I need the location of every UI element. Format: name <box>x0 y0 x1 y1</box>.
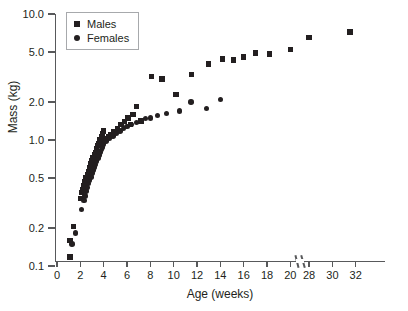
x-tick-label: 10 <box>168 269 180 281</box>
y-tick-label: 2.0 <box>29 96 44 108</box>
x-tick-16: 16 <box>243 261 244 267</box>
x-tick-label: 28 <box>303 269 315 281</box>
data-point-females <box>94 158 100 164</box>
data-point-females <box>218 97 224 103</box>
x-tick-label: 2 <box>77 269 83 281</box>
data-point-females <box>95 155 101 161</box>
data-point-males <box>122 119 127 124</box>
data-point-males <box>128 122 133 127</box>
data-point-females <box>100 144 106 150</box>
y-tick-0.1: 0.1 <box>48 265 55 266</box>
y-tick-0.5: 0.5 <box>48 177 55 178</box>
data-point-females <box>81 198 87 204</box>
x-tick-label: 20 <box>284 269 296 281</box>
data-point-females <box>85 185 91 191</box>
data-point-males <box>111 129 116 134</box>
data-point-females <box>97 149 103 155</box>
x-tick-30: 30 <box>332 261 333 267</box>
data-point-females <box>110 133 116 139</box>
data-point-males <box>86 169 91 174</box>
data-point-males <box>220 56 225 61</box>
x-tick-0: 0 <box>56 261 57 267</box>
y-tick-5.0: 5.0 <box>48 51 55 52</box>
data-point-females <box>82 193 88 199</box>
data-point-females <box>188 99 194 105</box>
data-point-males <box>67 254 72 259</box>
data-point-females <box>204 106 210 112</box>
y-tick-label: 0.1 <box>29 260 44 272</box>
y-axis-title: Mass (kg) <box>6 47 20 167</box>
data-point-males <box>347 29 352 34</box>
square-marker-icon <box>73 21 81 27</box>
data-point-females <box>88 174 94 180</box>
data-point-males <box>159 76 164 81</box>
data-point-males <box>81 183 86 188</box>
x-tick-label: 6 <box>124 269 130 281</box>
data-point-males <box>106 134 111 139</box>
data-point-males <box>125 115 130 120</box>
legend: Males Females <box>66 12 139 50</box>
x-tick-label: 18 <box>261 269 273 281</box>
data-point-males <box>83 175 88 180</box>
data-point-males <box>173 92 178 97</box>
data-point-females <box>177 108 183 114</box>
y-tick-label: 5.0 <box>29 46 44 58</box>
data-point-males <box>71 224 76 229</box>
data-point-females <box>121 126 127 132</box>
x-tick-label: 16 <box>238 269 250 281</box>
y-tick-label: 1.0 <box>29 134 44 146</box>
data-point-males <box>101 128 106 133</box>
data-point-males <box>138 118 143 123</box>
x-tick-12: 12 <box>196 261 197 267</box>
x-tick-label: 12 <box>191 269 203 281</box>
data-point-females <box>96 152 102 158</box>
data-point-males <box>78 196 83 201</box>
data-point-females <box>138 118 144 124</box>
data-point-males <box>85 172 90 177</box>
data-point-females <box>93 162 99 168</box>
data-point-males <box>83 181 88 186</box>
data-point-females <box>164 111 170 117</box>
x-tick-4: 4 <box>103 261 104 267</box>
x-tick-label: 14 <box>214 269 226 281</box>
data-point-females <box>90 167 96 173</box>
y-tick-10.0: 10.0 <box>48 13 55 14</box>
x-axis-title: Age (weeks) <box>55 287 385 301</box>
legend-label-males: Males <box>87 18 116 30</box>
data-point-females <box>99 147 105 153</box>
data-point-males <box>267 51 272 56</box>
y-axis-line <box>55 14 56 262</box>
x-tick-6: 6 <box>126 261 127 267</box>
data-point-males <box>115 126 120 131</box>
data-point-males <box>96 141 101 146</box>
y-tick-2.0: 2.0 <box>48 101 55 102</box>
data-point-males <box>88 161 93 166</box>
data-point-males <box>94 146 99 151</box>
data-point-females <box>114 131 120 137</box>
legend-item-females: Females <box>73 31 129 45</box>
data-point-females <box>83 188 89 194</box>
circle-marker-icon <box>73 35 81 42</box>
x-tick-label: 30 <box>326 269 338 281</box>
data-point-males <box>241 54 246 59</box>
data-point-females <box>134 120 140 126</box>
data-point-males <box>90 155 95 160</box>
x-tick-28: 28 <box>308 261 309 267</box>
data-point-males <box>103 136 108 141</box>
y-tick-0.2: 0.2 <box>48 227 55 228</box>
scatter-plot-figure: 0.10.20.51.02.05.010.0 02468101214161820… <box>0 0 408 311</box>
data-point-males <box>130 112 135 117</box>
data-point-males <box>189 72 194 77</box>
data-point-females <box>124 124 130 130</box>
data-point-males <box>89 163 94 168</box>
data-point-males <box>100 131 105 136</box>
x-tick-label: 8 <box>147 269 153 281</box>
data-point-males <box>118 122 123 127</box>
x-tick-8: 8 <box>150 261 151 267</box>
axis-break-gap <box>296 259 304 263</box>
data-point-males <box>288 47 293 52</box>
data-point-females <box>79 207 85 213</box>
data-point-males <box>231 57 236 62</box>
y-tick-label: 0.5 <box>29 172 44 184</box>
y-tick-label: 10.0 <box>23 8 44 20</box>
